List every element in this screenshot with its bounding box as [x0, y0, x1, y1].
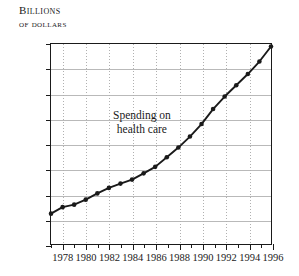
y-axis-tick: [46, 196, 51, 197]
data-point-marker: [141, 171, 146, 176]
data-point-marker: [118, 181, 123, 186]
x-axis-tick: [121, 244, 122, 248]
x-axis-tick: [156, 244, 157, 250]
series-layer: [51, 44, 271, 244]
x-axis-tick: [51, 244, 52, 248]
data-point-marker: [60, 205, 65, 210]
x-axis-tick: [63, 244, 64, 250]
y-axis-tick: [46, 95, 51, 96]
data-point-marker: [246, 72, 251, 77]
data-point-marker: [130, 177, 135, 182]
x-axis-tick: [133, 244, 134, 250]
data-point-marker: [211, 107, 216, 112]
y-axis-tick: [46, 44, 51, 45]
x-axis-tick: [250, 244, 251, 250]
plot-area: 0100200300400500600700800197819801982198…: [50, 43, 272, 245]
data-point-marker: [257, 59, 262, 64]
x-axis-tick: [191, 244, 192, 248]
y-axis-title-line1: Billions: [19, 4, 67, 17]
data-point-marker: [153, 165, 158, 170]
data-point-marker: [222, 94, 227, 99]
data-point-marker: [83, 197, 88, 202]
x-axis-tick: [226, 244, 227, 250]
y-axis-tick: [46, 120, 51, 121]
health-care-spending-chart: Billions of dollars 01002003004005006007…: [0, 0, 299, 276]
x-axis-tick: [144, 244, 145, 248]
series-annotation: Spending on health care: [113, 108, 171, 136]
data-point-marker: [165, 155, 170, 160]
x-axis-tick: [238, 244, 239, 248]
x-axis-tick: [180, 244, 181, 250]
x-axis-tick: [273, 244, 274, 250]
data-point-marker: [199, 122, 204, 127]
y-axis-tick: [46, 170, 51, 171]
data-point-marker: [188, 134, 193, 139]
annotation-line1: Spending on: [113, 108, 171, 122]
x-axis-tick: [261, 244, 262, 248]
x-axis-tick: [109, 244, 110, 250]
x-axis-label: 1996: [253, 252, 293, 263]
y-axis-title: Billions of dollars: [19, 4, 67, 30]
y-axis-tick: [46, 69, 51, 70]
data-point-marker: [176, 145, 181, 150]
data-point-marker: [49, 211, 54, 216]
data-point-marker: [95, 191, 100, 196]
x-axis-tick: [215, 244, 216, 248]
x-axis-tick: [168, 244, 169, 248]
data-point-marker: [107, 186, 112, 191]
data-point-marker: [269, 44, 274, 49]
x-axis-tick: [74, 244, 75, 248]
y-axis-tick: [46, 145, 51, 146]
x-axis-tick: [203, 244, 204, 250]
y-axis-tick: [46, 221, 51, 222]
data-point-marker: [234, 83, 239, 88]
y-axis-title-line2: of dollars: [19, 17, 67, 30]
x-axis-tick: [86, 244, 87, 250]
annotation-line2: health care: [113, 122, 171, 136]
x-axis-tick: [98, 244, 99, 248]
data-point-marker: [72, 202, 77, 207]
